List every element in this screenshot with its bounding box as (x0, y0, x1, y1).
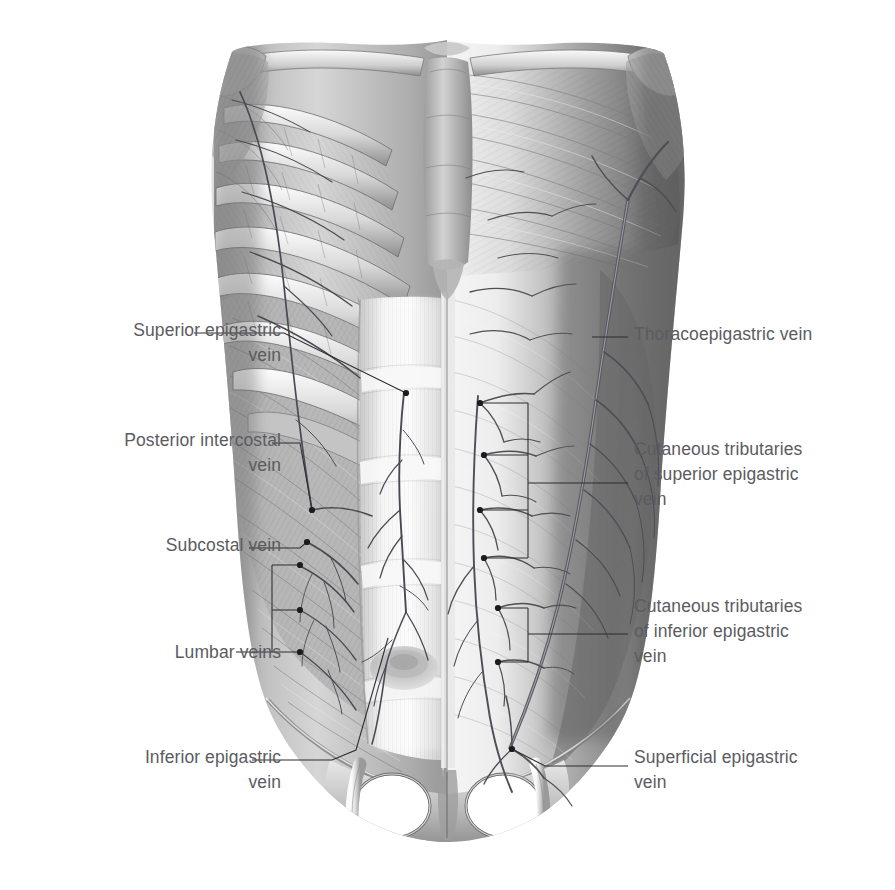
label-superior-epigastric-vein: Superior epigastric vein (96, 318, 281, 368)
label-lumbar-veins: Lumbar veins (123, 640, 281, 665)
label-inferior-epigastric-vein: Inferior epigastric vein (77, 745, 281, 795)
label-cutaneous-tributaries-superior-epigastric: Cutaneous tributaries of superior epigas… (634, 437, 866, 512)
label-posterior-intercostal-vein: Posterior intercostal vein (52, 428, 281, 478)
anatomical-figure: Superior epigastric vein Posterior inter… (0, 0, 895, 890)
label-subcostal-vein: Subcostal vein (113, 533, 281, 558)
sternum (424, 57, 473, 270)
label-superficial-epigastric-vein: Superficial epigastric vein (634, 745, 863, 795)
label-thoracoepigastric-vein: Thoracoepigastric vein (634, 322, 884, 347)
label-cutaneous-tributaries-inferior-epigastric: Cutaneous tributaries of inferior epigas… (634, 594, 866, 669)
spermatic-cord-left (352, 764, 360, 842)
